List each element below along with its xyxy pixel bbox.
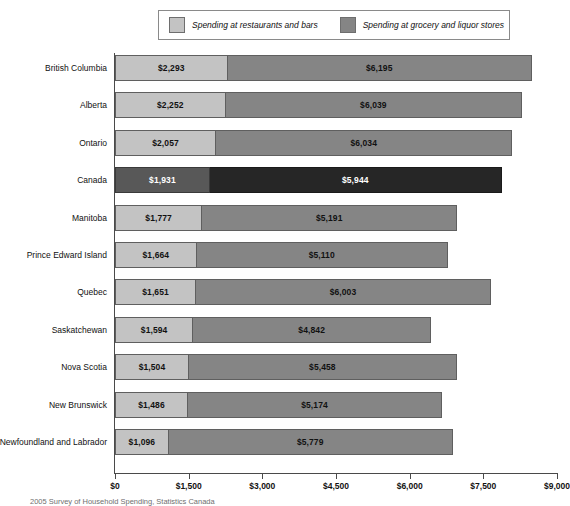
- x-axis-tick: [336, 473, 337, 479]
- bar-row: $1,931$5,944: [115, 167, 502, 193]
- x-axis-tick-label: $3,000: [249, 481, 275, 491]
- bar-value-label: $5,191: [316, 213, 343, 223]
- bar-segment: $2,293: [115, 55, 228, 81]
- bar-row: $1,664$5,110: [115, 242, 448, 268]
- bar-value-label: $5,110: [309, 250, 335, 260]
- bar-value-label: $1,594: [141, 325, 168, 335]
- category-label: Prince Edward Island: [27, 242, 107, 268]
- bar-segment: $1,096: [115, 429, 169, 455]
- bar-value-label: $5,458: [309, 362, 336, 372]
- chart-footnote: 2005 Survey of Household Spending, Stati…: [30, 497, 215, 506]
- bar-segment: $6,039: [226, 92, 523, 118]
- bar-value-label: $1,486: [138, 400, 165, 410]
- category-axis: British ColumbiaAlbertaOntarioCanadaMani…: [0, 53, 111, 469]
- x-axis-tick: [262, 473, 263, 479]
- bar-value-label: $1,504: [139, 362, 166, 372]
- bar-value-label: $1,931: [149, 175, 176, 185]
- bar-segment: $5,779: [169, 429, 453, 455]
- x-axis-tick-label: $1,500: [176, 481, 202, 491]
- bar-segment: $1,504: [115, 354, 189, 380]
- bar-value-label: $6,034: [350, 138, 377, 148]
- legend-item-grocery: Spending at grocery and liquor stores: [340, 17, 504, 33]
- category-label: New Brunswick: [49, 392, 107, 418]
- bar-value-label: $5,944: [342, 175, 369, 185]
- bar-value-label: $6,003: [330, 287, 357, 297]
- category-label: Saskatchewan: [52, 317, 107, 343]
- category-label: Ontario: [79, 130, 107, 156]
- bar-value-label: $6,039: [360, 100, 387, 110]
- bar-value-label: $1,777: [145, 213, 172, 223]
- bar-row: $1,594$4,842: [115, 317, 431, 343]
- plot-area: $2,293$6,195$2,252$6,039$2,057$6,034$1,9…: [115, 53, 557, 469]
- bar-segment: $5,458: [189, 354, 457, 380]
- legend-swatch-restaurants-icon: [169, 17, 185, 33]
- bar-value-label: $5,174: [301, 400, 328, 410]
- bar-row: $1,486$5,174: [115, 392, 442, 418]
- stacked-bar-chart: Spending at restaurants and bars Spendin…: [0, 0, 570, 506]
- bar-row: $2,057$6,034: [115, 130, 512, 156]
- bar-value-label: $4,842: [298, 325, 325, 335]
- x-axis-tick: [410, 473, 411, 479]
- bar-segment: $4,842: [193, 317, 431, 343]
- x-axis-tick: [115, 473, 116, 479]
- bar-value-label: $1,651: [142, 287, 169, 297]
- bar-segment: $5,944: [210, 167, 502, 193]
- legend-label-restaurants: Spending at restaurants and bars: [192, 20, 318, 30]
- category-label: Newfoundland and Labrador: [0, 429, 107, 455]
- category-label: Alberta: [80, 92, 107, 118]
- bar-segment: $6,034: [216, 130, 512, 156]
- bar-segment: $2,057: [115, 130, 216, 156]
- x-axis-tick: [483, 473, 484, 479]
- bar-row: $1,777$5,191: [115, 205, 457, 231]
- category-label: Canada: [77, 167, 107, 193]
- bar-value-label: $6,195: [366, 63, 393, 73]
- bar-segment: $1,664: [115, 242, 197, 268]
- bar-segment: $5,110: [197, 242, 448, 268]
- bar-value-label: $1,664: [143, 250, 170, 260]
- bar-segment: $5,191: [202, 205, 457, 231]
- x-axis-tick-label: $0: [110, 481, 119, 491]
- bar-value-label: $2,252: [157, 100, 184, 110]
- bar-segment: $1,777: [115, 205, 202, 231]
- bar-value-label: $2,293: [158, 63, 185, 73]
- bar-segment: $5,174: [188, 392, 442, 418]
- bar-row: $2,293$6,195: [115, 55, 532, 81]
- bar-row: $1,504$5,458: [115, 354, 457, 380]
- x-axis-tick: [189, 473, 190, 479]
- legend-swatch-grocery-icon: [340, 17, 356, 33]
- bar-segment: $6,003: [196, 279, 491, 305]
- bar-segment: $1,594: [115, 317, 193, 343]
- chart-legend: Spending at restaurants and bars Spendin…: [158, 10, 510, 40]
- category-label: Quebec: [77, 279, 107, 305]
- x-axis-tick-label: $4,500: [323, 481, 349, 491]
- bar-segment: $6,195: [228, 55, 532, 81]
- x-axis-tick-label: $6,000: [397, 481, 423, 491]
- bar-segment: $1,931: [115, 167, 210, 193]
- category-label: British Columbia: [45, 55, 107, 81]
- bar-row: $1,651$6,003: [115, 279, 491, 305]
- category-label: Nova Scotia: [61, 354, 107, 380]
- legend-label-grocery: Spending at grocery and liquor stores: [363, 20, 504, 30]
- bar-value-label: $1,096: [129, 437, 156, 447]
- x-axis-tick: [557, 473, 558, 479]
- legend-item-restaurants: Spending at restaurants and bars: [169, 17, 318, 33]
- bar-row: $2,252$6,039: [115, 92, 522, 118]
- bar-segment: $1,651: [115, 279, 196, 305]
- bar-segment: $2,252: [115, 92, 226, 118]
- bar-row: $1,096$5,779: [115, 429, 453, 455]
- bar-segment: $1,486: [115, 392, 188, 418]
- bar-value-label: $5,779: [297, 437, 324, 447]
- category-label: Manitoba: [72, 205, 107, 231]
- x-axis-tick-label: $9,000: [544, 481, 570, 491]
- x-axis-tick-label: $7,500: [470, 481, 496, 491]
- bar-value-label: $2,057: [152, 138, 179, 148]
